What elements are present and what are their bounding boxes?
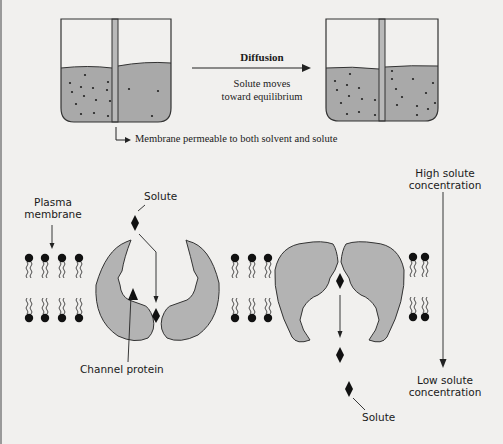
channel-protein-open-top <box>96 205 219 362</box>
solute-in-channel-2 <box>336 273 344 289</box>
lipid-bilayer-left <box>25 254 83 322</box>
solute-bottom-diamond <box>345 381 353 397</box>
diffusion-diagram: Diffusion Solute moves toward equilibriu… <box>0 0 503 444</box>
high-concentration-label-1: High solute <box>400 167 490 179</box>
membrane-barrier <box>112 19 118 122</box>
membrane-pointer-arrow <box>116 127 126 140</box>
solute-exiting <box>336 347 344 363</box>
solute-label-top: Solute <box>144 190 177 202</box>
high-concentration-label-2: concentration <box>400 179 490 191</box>
beaker-initial <box>61 19 171 122</box>
concentration-gradient-arrow <box>440 192 447 368</box>
diffusion-title: Diffusion <box>222 51 302 63</box>
diffusion-caption-1: Solute moves <box>200 77 324 90</box>
plasma-membrane-label-1: Plasma <box>20 196 86 208</box>
lipid-bilayer-middle <box>231 254 272 322</box>
beaker-equilibrium <box>326 19 438 121</box>
channel-protein-open-bottom <box>275 242 404 410</box>
diffusion-caption-2: toward equilibrium <box>200 90 324 103</box>
low-concentration-label-1: Low solute <box>400 374 490 386</box>
low-concentration-label-2: concentration <box>400 386 490 398</box>
channel-protein-label: Channel protein <box>80 363 164 375</box>
diffusion-arrow <box>192 64 311 72</box>
plasma-membrane-label-2: membrane <box>20 208 86 220</box>
solute-label-bottom: Solute <box>362 411 395 423</box>
solute-top-diamond <box>131 215 139 231</box>
lipid-bilayer-right <box>409 253 429 321</box>
membrane-note: Membrane permeable to both solvent and s… <box>135 133 337 144</box>
